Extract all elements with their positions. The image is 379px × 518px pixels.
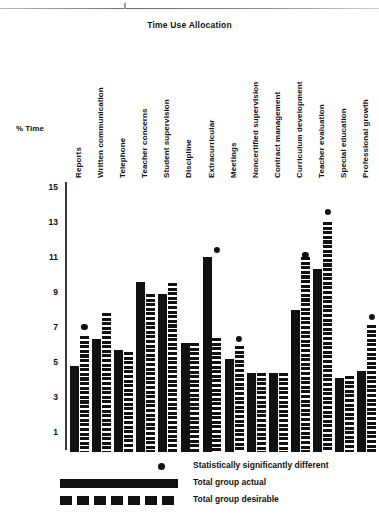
x-axis-category-labels: ReportsWritten communicationTelephoneTea… [0,36,379,178]
scan-artifact-speck [124,3,126,9]
y-axis-tick-labels: 15131197531 [14,180,58,452]
bar-group [203,180,222,452]
bar-actual [70,366,79,453]
x-axis-label-special-education: Special education [340,108,348,178]
bar-group [114,180,133,452]
y-axis-tick-9: 9 [16,287,58,297]
chart-legend: Statistically significantly different To… [60,458,360,509]
bar-desirable [190,343,199,452]
scan-artifact-line [0,8,379,9]
bar-actual [136,282,145,453]
bar-desirable [323,222,332,452]
x-axis-label-meetings: Meetings [230,143,238,178]
bar-desirable [168,283,177,452]
y-axis-tick-3: 3 [16,392,58,402]
y-axis-title: % Time [16,124,44,133]
bar-group [136,180,155,452]
legend-key-desirable [60,492,178,509]
legend-label: Statistically significantly different [193,460,329,470]
y-axis-tick-15: 15 [16,182,58,192]
bar-group [247,180,266,452]
legend-key-actual [60,475,178,492]
x-axis-label-discipline: Discipline [185,139,193,178]
bar-actual [291,310,300,453]
legend-row: Statistically significantly different [60,458,360,475]
bar-desirable [279,373,288,453]
bar-group [225,180,244,452]
bar-desirable [235,346,244,452]
bar-desirable [301,257,310,452]
x-axis-label-teacher-evaluation: Teacher evaluation [318,104,326,178]
bar-desirable [102,313,111,452]
dashed-bar-swatch-icon [60,496,178,505]
bar-actual [158,294,167,452]
plot-area [66,180,379,452]
bar-group [313,180,332,452]
bar-actual [203,257,212,452]
bar-desirable [124,352,133,453]
bar-desirable [367,325,376,452]
bar-desirable [345,376,354,452]
bar-actual [269,373,278,453]
y-axis-tick-1: 1 [16,427,58,437]
bar-actual [181,343,190,452]
bar-desirable [212,338,221,453]
y-axis-tick-5: 5 [16,357,58,367]
bar-group [92,180,111,452]
x-axis-label-reports: Reports [75,147,83,178]
bar-actual [335,378,344,452]
bar-actual [92,339,101,452]
x-axis-label-curriculum-development: Curriculum development [296,82,304,178]
legend-label: Total group desirable [193,494,279,504]
legend-label: Total group actual [193,477,266,487]
solid-bar-swatch-icon [60,479,178,488]
bar-desirable [80,336,89,452]
bar-group [269,180,288,452]
bar-actual [357,371,366,452]
x-axis-label-contract-management: Contract management [274,92,282,178]
chart-title: Time Use Allocation [0,20,379,30]
bar-group [158,180,177,452]
bar-group [335,180,354,452]
significance-dot-icon [158,463,165,470]
x-axis-label-student-supervision: Student supervision [163,99,171,178]
y-axis-tick-11: 11 [16,252,58,262]
bar-desirable [257,373,266,453]
x-axis-label-teacher-concerns: Teacher concerns [141,109,149,178]
bar-group [291,180,310,452]
bar-actual [313,269,322,452]
x-axis-label-written-communication: Written communication [97,87,105,178]
bar-actual [225,359,234,453]
x-axis-label-professional-growth: Professional growth [362,99,370,178]
bar-group [181,180,200,452]
bar-actual [247,373,256,453]
bar-group [70,180,89,452]
legend-row: Total group actual [60,475,360,492]
bar-actual [114,350,123,452]
x-axis-label-noncertified-supervision: Noncertified supervision [252,82,260,178]
y-axis-tick-13: 13 [16,217,58,227]
bar-desirable [146,294,155,452]
legend-row: Total group desirable [60,492,360,509]
x-axis-label-extracurricular: Extracurricular [208,120,216,178]
y-axis-tick-7: 7 [16,322,58,332]
x-axis-label-telephone: Telephone [119,138,127,178]
legend-key-significance [60,458,178,475]
